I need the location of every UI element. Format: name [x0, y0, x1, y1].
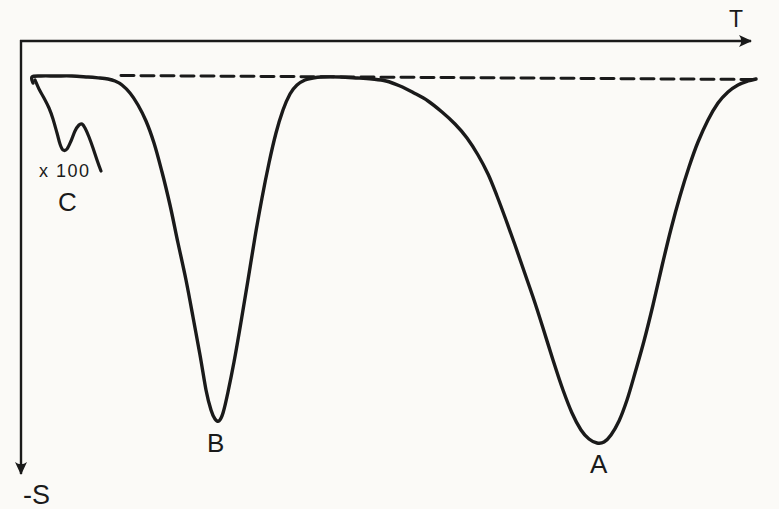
plot-canvas: T -S x 100 C B A — [0, 0, 779, 509]
peak-a-label: A — [590, 449, 608, 479]
magnification-annotation: x 100 — [39, 161, 91, 181]
curve-baseline-dashed — [121, 76, 755, 80]
peak-c-label: C — [58, 187, 77, 217]
peak-b-label: B — [207, 428, 224, 458]
axes-layer — [20, 40, 751, 474]
curve-trace-peak-C-magnified — [35, 80, 101, 171]
curve-main-trace-peaks-B-A — [32, 76, 756, 443]
x-axis-label: T — [729, 6, 743, 32]
figure: T -S x 100 C B A — [0, 0, 779, 509]
curves-layer — [32, 76, 756, 444]
y-axis-label: -S — [23, 480, 50, 509]
